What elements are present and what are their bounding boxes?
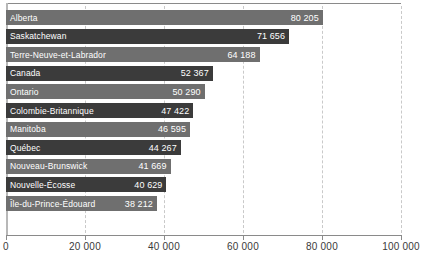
bar-value-label: 80 205 xyxy=(291,13,323,23)
bar-chart: Alberta80 205Saskatchewan71 656Terre-Neu… xyxy=(0,0,426,259)
gridline-100000 xyxy=(401,6,402,238)
bar: Terre-Neuve-et-Labrador64 188 xyxy=(6,47,260,62)
bar-value-label: 41 669 xyxy=(138,161,170,171)
bar-row: Nouveau-Brunswick41 669 xyxy=(6,159,401,174)
x-tick-label: 20 000 xyxy=(69,241,101,252)
bar: Québec44 267 xyxy=(6,140,181,155)
bar-row: Alberta80 205 xyxy=(6,10,401,25)
bar: Nouveau-Brunswick41 669 xyxy=(6,159,171,174)
bar: Colombie-Britannique47 422 xyxy=(6,103,193,118)
bar-value-label: 52 367 xyxy=(181,68,213,78)
bar-category-label: Alberta xyxy=(6,13,38,23)
bar: Canada52 367 xyxy=(6,66,213,81)
bar-value-label: 71 656 xyxy=(257,31,289,41)
x-tick-mark-80000 xyxy=(322,236,323,240)
bar-value-label: 46 595 xyxy=(158,124,190,134)
bar-category-label: Île-du-Prince-Édouard xyxy=(6,199,95,209)
bar: Île-du-Prince-Édouard38 212 xyxy=(6,196,157,211)
bar-value-label: 38 212 xyxy=(125,199,157,209)
bar-row: Saskatchewan71 656 xyxy=(6,29,401,44)
bar-category-label: Canada xyxy=(6,68,40,78)
x-tick-mark-40000 xyxy=(164,236,165,240)
bar: Saskatchewan71 656 xyxy=(6,29,289,44)
bar: Nouvelle-Écosse40 629 xyxy=(6,177,166,192)
bar-value-label: 64 188 xyxy=(227,50,259,60)
bar-row: Manitoba46 595 xyxy=(6,122,401,137)
bar-category-label: Nouvelle-Écosse xyxy=(6,180,75,190)
bar-category-label: Ontario xyxy=(6,87,39,97)
x-tick-label: 100 000 xyxy=(382,241,420,252)
bar-value-label: 44 267 xyxy=(149,143,181,153)
bar-row: Ontario50 290 xyxy=(6,84,401,99)
bar-row: Canada52 367 xyxy=(6,66,401,81)
bar-category-label: Manitoba xyxy=(6,124,46,134)
x-tick-mark-60000 xyxy=(243,236,244,240)
x-tick-mark-20000 xyxy=(85,236,86,240)
bar-row: Colombie-Britannique47 422 xyxy=(6,103,401,118)
bar-row: Terre-Neuve-et-Labrador64 188 xyxy=(6,47,401,62)
bar-value-label: 47 422 xyxy=(161,106,193,116)
bar-category-label: Colombie-Britannique xyxy=(6,106,94,116)
x-tick-mark-100000 xyxy=(401,236,402,240)
bars-container: Alberta80 205Saskatchewan71 656Terre-Neu… xyxy=(6,3,401,235)
x-axis-line xyxy=(6,235,402,236)
bar: Manitoba46 595 xyxy=(6,122,190,137)
x-tick-label: 80 000 xyxy=(306,241,338,252)
bar-category-label: Nouveau-Brunswick xyxy=(6,161,87,171)
bar: Alberta80 205 xyxy=(6,10,323,25)
bar-value-label: 50 290 xyxy=(173,87,205,97)
bar: Ontario50 290 xyxy=(6,84,205,99)
bar-category-label: Terre-Neuve-et-Labrador xyxy=(6,50,106,60)
x-tick-label: 0 xyxy=(3,241,9,252)
bar-category-label: Saskatchewan xyxy=(6,31,66,41)
bar-row: Nouvelle-Écosse40 629 xyxy=(6,177,401,192)
bar-category-label: Québec xyxy=(6,143,40,153)
bar-row: Île-du-Prince-Édouard38 212 xyxy=(6,196,401,211)
x-tick-label: 40 000 xyxy=(148,241,180,252)
x-tick-mark-0 xyxy=(6,236,7,240)
bar-value-label: 40 629 xyxy=(134,180,166,190)
bar-row: Québec44 267 xyxy=(6,140,401,155)
x-tick-label: 60 000 xyxy=(227,241,259,252)
